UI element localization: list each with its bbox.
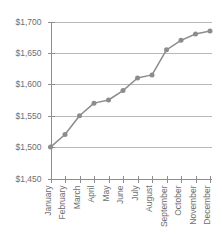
data-point-marker [208, 28, 213, 33]
data-series-line [51, 31, 211, 147]
data-point-marker [135, 76, 140, 81]
data-point-marker [121, 88, 126, 93]
y-axis-tick-label: $1,700 [16, 17, 42, 27]
x-axis-tick-label: September [159, 185, 169, 227]
y-axis-tick-label: $1,550 [16, 111, 42, 121]
x-axis-tick-label: January [43, 185, 53, 216]
x-axis-tick-label: July [130, 185, 140, 201]
line-chart: $1,450$1,500$1,550$1,600$1,650$1,700 Jan… [0, 0, 222, 242]
y-axis [48, 22, 212, 180]
x-axis-tick-label: October [173, 185, 183, 215]
data-point-marker [92, 101, 97, 106]
x-axis-tick-label: December [202, 185, 212, 224]
y-axis-tick-label: $1,500 [16, 142, 42, 152]
x-axis-tick-label: May [101, 185, 111, 202]
x-axis-tick-labels: JanuaryFebruaryMarchAprilMayJuneJulyAugu… [43, 185, 213, 227]
data-point-marker [106, 98, 111, 103]
x-axis-tick-label: June [115, 185, 125, 204]
x-axis-tick-label: August [144, 185, 154, 212]
gridlines [51, 23, 213, 148]
x-axis-tick-label: November [188, 185, 198, 224]
data-point-marker [164, 47, 169, 52]
series-line-path [51, 31, 211, 147]
data-point-marker [63, 132, 68, 137]
y-axis-tick-label: $1,650 [16, 48, 42, 58]
data-point-marker [48, 145, 53, 150]
x-axis-tick-label: March [72, 185, 82, 209]
data-point-marker [193, 32, 198, 37]
x-axis-tick-label: April [86, 185, 96, 202]
data-point-marker [77, 113, 82, 118]
y-axis-tick-label: $1,450 [16, 174, 42, 184]
data-point-marker [150, 72, 155, 77]
chart-canvas: $1,450$1,500$1,550$1,600$1,650$1,700 Jan… [0, 0, 222, 242]
y-axis-tick-labels: $1,450$1,500$1,550$1,600$1,650$1,700 [16, 17, 42, 184]
data-point-marker [179, 38, 184, 43]
x-axis-tick-label: February [57, 185, 67, 220]
data-point-markers [48, 28, 213, 149]
y-axis-tick-label: $1,600 [16, 79, 42, 89]
